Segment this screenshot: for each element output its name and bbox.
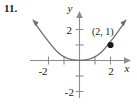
marked-point-dot <box>107 42 113 48</box>
x-axis-tick-label-2: 2 <box>108 65 114 77</box>
x-axis-label: x <box>124 62 130 74</box>
curve-right-arrow-icon <box>120 19 126 26</box>
graph-figure: 11. <box>0 0 137 104</box>
coordinate-plane-graph: -2 2 2 -2 y x (2, 1) <box>0 0 137 104</box>
x-axis-tick-label-minus2: -2 <box>38 65 47 77</box>
y-axis-arrow-icon <box>76 11 83 18</box>
y-axis-tick-label-2: 2 <box>67 24 73 36</box>
y-axis <box>76 11 84 98</box>
marked-point-label: (2, 1) <box>92 26 114 38</box>
y-axis-tick-label-minus2: -2 <box>65 86 74 98</box>
curve-left-arrow-icon <box>32 19 38 26</box>
y-axis-label: y <box>67 2 73 14</box>
